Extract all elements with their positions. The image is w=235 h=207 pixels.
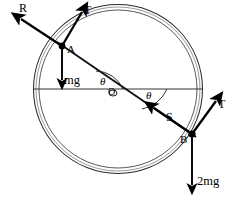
force-vector-T-at-A <box>62 12 82 46</box>
label-point-A: A <box>67 44 75 55</box>
label-force-R: R <box>19 2 27 14</box>
label-point-B: B <box>180 134 187 145</box>
label-weight-2mg: 2mg <box>197 175 219 188</box>
force-vector-T-at-B <box>192 101 216 134</box>
label-angle-left: θ <box>100 76 105 87</box>
physics-diagram-canvas: R T A mg θ O θ S T B 2mg <box>0 0 235 207</box>
label-weight-mg: mg <box>64 74 80 87</box>
label-angle-right: θ <box>146 90 151 101</box>
label-force-S: S <box>166 111 173 123</box>
label-force-T-right: T <box>218 98 225 110</box>
force-vector-S <box>154 108 192 134</box>
label-center-O: O <box>108 87 115 97</box>
label-force-T-top: T <box>84 4 91 16</box>
